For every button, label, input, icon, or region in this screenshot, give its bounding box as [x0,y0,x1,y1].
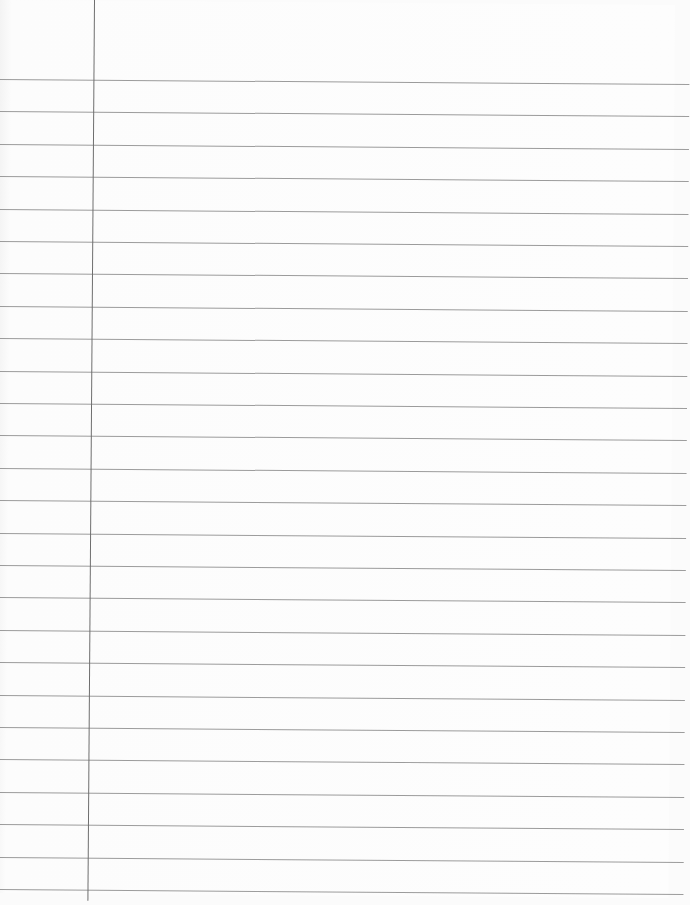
notebook-page [0,0,675,898]
margin-line [87,0,95,901]
ruled-line [0,79,689,85]
ruled-line [0,371,687,377]
ruled-line [0,727,685,733]
ruled-line [0,435,687,441]
ruled-line [0,695,685,701]
ruled-line [0,468,687,474]
ruled-line [0,176,689,182]
ruled-line [0,565,686,571]
ruled-line [0,856,684,862]
ruled-line [0,792,684,798]
ruled-line [0,759,684,765]
ruled-line [0,144,689,150]
ruled-line [0,630,685,636]
ruled-line [0,597,686,603]
ruled-line [0,500,686,506]
ruled-lines [0,0,675,5]
ruled-line [0,533,686,539]
ruled-line [0,209,688,215]
ruled-line [0,273,688,279]
ruled-line [0,662,685,668]
ruled-line [0,111,689,117]
ruled-line [0,403,687,409]
ruled-line [0,824,684,830]
ruled-line [0,241,688,247]
ruled-line [0,889,683,895]
ruled-line [0,338,688,344]
ruled-line [0,306,688,312]
